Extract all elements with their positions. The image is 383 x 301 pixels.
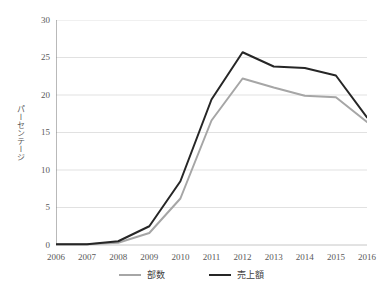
x-tick-2014: 2014 [288, 252, 322, 262]
line-chart: パーセンテージ 051015202530 2006200720082009201… [0, 0, 383, 301]
y-tick-30: 30 [26, 16, 50, 25]
y-tick-20: 20 [26, 91, 50, 100]
x-tick-2010: 2010 [163, 252, 197, 262]
y-tick-15: 15 [26, 128, 50, 137]
x-tick-2008: 2008 [101, 252, 135, 262]
x-tick-2011: 2011 [195, 252, 229, 262]
x-tick-2015: 2015 [319, 252, 353, 262]
y-axis-title: パーセンテージ [10, 78, 24, 188]
x-tick-2007: 2007 [70, 252, 104, 262]
x-tick-2016: 2016 [350, 252, 383, 262]
x-tick-2009: 2009 [132, 252, 166, 262]
legend-item-売上額[interactable]: 売上額 [209, 270, 264, 280]
x-tick-2006: 2006 [39, 252, 73, 262]
y-tick-25: 25 [26, 53, 50, 62]
series-line-売上額 [56, 52, 367, 244]
legend-swatch-部数 [119, 274, 141, 276]
y-tick-10: 10 [26, 166, 50, 175]
legend-label-売上額: 売上額 [237, 270, 264, 280]
legend-item-部数[interactable]: 部数 [119, 270, 165, 280]
y-tick-0: 0 [26, 241, 50, 250]
series-line-部数 [56, 79, 367, 245]
chart-legend: 部数売上額 [0, 270, 383, 280]
x-tick-2013: 2013 [257, 252, 291, 262]
plot-svg [56, 20, 367, 247]
plot-area [56, 20, 367, 245]
y-tick-5: 5 [26, 203, 50, 212]
legend-label-部数: 部数 [147, 270, 165, 280]
legend-swatch-売上額 [209, 274, 231, 276]
x-tick-2012: 2012 [226, 252, 260, 262]
